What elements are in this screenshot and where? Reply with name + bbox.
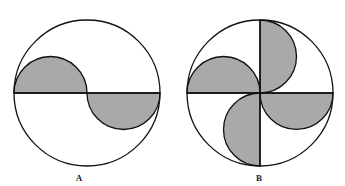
shaded-semicircle-lower-right [87,93,160,130]
shaded-semicircle-upper-left [14,57,87,93]
shaded-semicircle-right-bottom [260,93,333,129]
panel-a: A [14,20,160,183]
panel-b: B [187,20,333,183]
shaded-semicircle-bottom-left [224,93,260,166]
shaded-semicircle-left-top [187,57,260,93]
panel-label-a: A [76,173,83,183]
geometry-figure: A B [0,0,345,186]
shaded-semicircle-top-right [260,20,296,93]
panel-label-b: B [256,173,262,183]
